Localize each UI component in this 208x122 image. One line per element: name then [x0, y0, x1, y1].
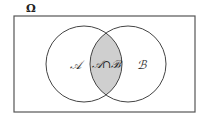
- venn-diagram: Ω 𝒜 𝒜∩ℬ ℬ: [0, 0, 208, 122]
- set-a-label: 𝒜: [70, 58, 85, 72]
- set-b-label: ℬ: [137, 58, 148, 72]
- universe-label: Ω: [26, 2, 36, 15]
- intersection-label: 𝒜∩ℬ: [92, 58, 123, 71]
